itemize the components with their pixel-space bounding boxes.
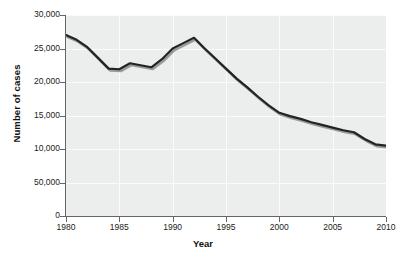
y-tick-mark [60,15,66,16]
y-tick-label: 25,000 [0,43,60,53]
y-tick-label: 15,000 [0,110,60,120]
y-tick-label: 10,000 [0,143,60,153]
x-tick-label: 2000 [254,222,304,232]
series-line-group [66,15,386,216]
x-tick-label: 2010 [361,222,406,232]
y-tick-mark [60,183,66,184]
y-tick-label: 50,000 [0,177,60,187]
y-tick-mark [60,149,66,150]
series-line [66,35,386,146]
x-axis-title: Year [0,238,406,249]
x-tick-label: 1990 [148,222,198,232]
x-tick-label: 1985 [94,222,144,232]
y-tick-label: 0 [0,210,60,220]
x-tick-label: 1980 [41,222,91,232]
plot-area [66,15,386,216]
plot-inner [66,15,386,216]
series-line-shadow [67,37,386,148]
y-tick-mark [60,49,66,50]
y-tick-label: 20,000 [0,76,60,86]
y-tick-label: 30,000 [0,9,60,19]
y-tick-mark [60,82,66,83]
x-tick-label: 2005 [308,222,358,232]
x-tick-label: 1995 [201,222,251,232]
line-chart: Number of cases 050,00010,00015,00020,00… [0,0,406,260]
y-tick-mark [60,116,66,117]
